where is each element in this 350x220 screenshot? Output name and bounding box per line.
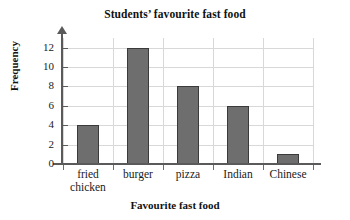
x-tick-label-line: chicken bbox=[58, 181, 118, 194]
y-tick-mark bbox=[63, 106, 68, 107]
x-axis-label: Favourite fast food bbox=[0, 199, 350, 211]
bar bbox=[177, 86, 199, 164]
gridline-vertical bbox=[263, 38, 264, 164]
gridline-horizontal bbox=[63, 48, 313, 49]
gridline-vertical bbox=[213, 38, 214, 164]
gridline-vertical bbox=[313, 38, 314, 164]
y-tick-label: 12 bbox=[28, 41, 54, 53]
y-tick-label: 6 bbox=[28, 99, 54, 111]
y-axis-label: Frequency bbox=[8, 16, 20, 116]
gridline-horizontal bbox=[63, 67, 313, 68]
y-tick-mark bbox=[63, 48, 68, 49]
gridline-vertical bbox=[113, 38, 114, 164]
y-tick-label: 10 bbox=[28, 60, 54, 72]
y-tick-mark bbox=[63, 125, 68, 126]
y-tick-label: 4 bbox=[28, 118, 54, 130]
y-tick-label: 2 bbox=[28, 138, 54, 150]
y-tick-mark bbox=[63, 86, 68, 87]
y-tick-label: 8 bbox=[28, 79, 54, 91]
y-tick-mark bbox=[63, 145, 68, 146]
y-tick-mark bbox=[63, 67, 68, 68]
chart-title: Students’ favourite fast food bbox=[0, 8, 350, 20]
plot-area bbox=[63, 38, 313, 164]
x-tick-label: Chinese bbox=[258, 168, 318, 181]
x-tick-label-line: Chinese bbox=[258, 168, 318, 181]
bar bbox=[77, 125, 99, 164]
bar bbox=[127, 48, 149, 164]
y-tick-label: 0 bbox=[28, 157, 54, 169]
bar bbox=[227, 106, 249, 164]
bar-chart: Students’ favourite fast food Frequency … bbox=[0, 0, 350, 220]
gridline-vertical bbox=[163, 38, 164, 164]
x-axis-line bbox=[53, 163, 321, 165]
